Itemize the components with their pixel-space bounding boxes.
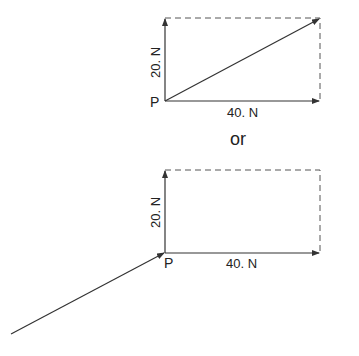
top-vector-diagram: P 20. N 40. N [148,18,320,120]
bottom-vertical-label: 20. N [148,197,163,228]
top-point-label: P [150,94,159,110]
top-resultant-vector [165,19,319,101]
or-separator: or [230,129,246,149]
bottom-dashed-rectangle [165,170,320,253]
bottom-vector-diagram: P 20. N 40. N [11,170,320,334]
vector-diagram: P 20. N 40. N or P 20. N 40. N [0,0,359,356]
bottom-point-label: P [164,255,173,271]
top-vertical-label: 20. N [148,47,163,78]
bottom-horizontal-label: 40. N [226,256,257,271]
top-horizontal-label: 40. N [227,105,258,120]
bottom-resultant-vector [11,253,164,334]
